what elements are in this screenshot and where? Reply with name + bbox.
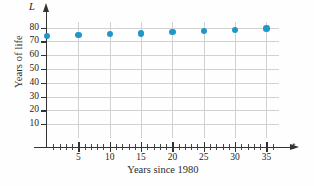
x-tick-mark-minor <box>191 144 192 150</box>
gridline-vertical <box>172 22 173 138</box>
y-tick-label: 70 <box>22 35 39 45</box>
y-tick-mark <box>41 41 47 42</box>
x-tick-mark-minor <box>185 144 186 150</box>
y-tick-label: 80 <box>22 22 39 32</box>
y-axis-variable-label: L <box>29 1 35 12</box>
gridline-horizontal <box>47 28 279 29</box>
y-tick-mark <box>41 124 47 125</box>
y-tick-mark <box>41 110 47 111</box>
x-tick-mark-minor <box>91 144 92 150</box>
x-tick-mark-minor <box>260 144 261 150</box>
x-tick-mark-minor <box>97 144 98 150</box>
gridline-vertical <box>110 22 111 138</box>
x-tick-label: 35 <box>256 152 276 162</box>
y-tick-mark <box>41 28 47 29</box>
life-expectancy-scatter-chart: L t Years of life Years since 1980 10203… <box>0 0 314 186</box>
x-tick-mark-minor <box>135 144 136 150</box>
x-tick-mark-major <box>172 142 173 152</box>
x-tick-label: 20 <box>162 152 182 162</box>
x-tick-label: 15 <box>131 152 151 162</box>
x-tick-mark-minor <box>53 144 54 150</box>
x-tick-mark-minor <box>197 144 198 150</box>
x-tick-mark-minor <box>241 144 242 150</box>
y-tick-mark <box>41 83 47 84</box>
y-tick-mark <box>41 69 47 70</box>
y-tick-label: 30 <box>22 91 39 101</box>
y-tick-label: 50 <box>22 63 39 73</box>
x-tick-label: 30 <box>225 152 245 162</box>
x-tick-mark-minor <box>122 144 123 150</box>
x-tick-mark-major <box>266 142 267 152</box>
y-axis-arrow-icon <box>43 3 49 12</box>
x-tick-mark-minor <box>216 144 217 150</box>
x-tick-label: 10 <box>100 152 120 162</box>
gridline-horizontal <box>47 110 279 111</box>
gridline-horizontal <box>47 41 279 42</box>
y-axis-line <box>46 10 47 148</box>
data-point <box>107 31 113 37</box>
y-tick-label: 40 <box>22 77 39 87</box>
x-tick-mark-minor <box>160 144 161 150</box>
x-tick-mark-minor <box>223 144 224 150</box>
gridline-horizontal <box>47 83 279 84</box>
gridline-horizontal <box>47 124 279 125</box>
gridline-horizontal <box>47 97 279 98</box>
x-tick-mark-minor <box>85 144 86 150</box>
x-tick-mark-minor <box>129 144 130 150</box>
x-tick-mark-major <box>235 142 236 152</box>
x-tick-mark-minor <box>103 144 104 150</box>
x-tick-mark-minor <box>273 144 274 150</box>
gridline-horizontal <box>47 69 279 70</box>
x-tick-mark-minor <box>116 144 117 150</box>
gridline-vertical <box>204 22 205 138</box>
x-tick-mark-minor <box>154 144 155 150</box>
gridline-vertical <box>266 22 267 138</box>
x-tick-mark-major <box>204 142 205 152</box>
data-point <box>169 29 175 35</box>
gridline-horizontal <box>47 55 279 56</box>
data-point <box>75 32 81 38</box>
y-tick-mark <box>41 97 47 98</box>
gridline-vertical <box>235 22 236 138</box>
x-tick-label: 5 <box>68 152 88 162</box>
x-tick-mark-minor <box>254 144 255 150</box>
x-tick-label: 25 <box>194 152 214 162</box>
y-tick-mark <box>41 55 47 56</box>
y-tick-label: 20 <box>22 104 39 114</box>
x-tick-mark-minor <box>147 144 148 150</box>
x-tick-mark-major <box>141 142 142 152</box>
y-tick-label: 60 <box>22 49 39 59</box>
x-tick-mark-minor <box>72 144 73 150</box>
x-tick-mark-minor <box>248 144 249 150</box>
y-tick-label: 10 <box>22 118 39 128</box>
plot-area <box>47 22 279 138</box>
gridline-vertical <box>141 22 142 138</box>
x-tick-mark-minor <box>166 144 167 150</box>
x-tick-mark-minor <box>60 144 61 150</box>
x-tick-mark-minor <box>179 144 180 150</box>
gridline-vertical <box>78 22 79 138</box>
data-point <box>138 30 144 36</box>
data-point <box>201 28 207 34</box>
x-axis-title: Years since 1980 <box>88 164 238 175</box>
x-tick-mark-minor <box>210 144 211 150</box>
x-tick-mark-major <box>78 142 79 152</box>
x-tick-mark-major <box>110 142 111 152</box>
data-point <box>263 25 269 31</box>
x-axis-arrow-icon <box>290 144 299 150</box>
x-tick-mark-minor <box>229 144 230 150</box>
x-tick-mark-minor <box>66 144 67 150</box>
